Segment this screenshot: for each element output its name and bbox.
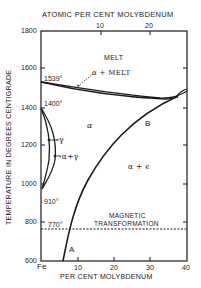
top-tick-label-10: 10 [96, 22, 104, 29]
alpha-gamma-arrowhead [53, 155, 56, 158]
y-tick-1200: 1200 [21, 141, 37, 148]
magnetic-label-line1: MAGNETIC [109, 213, 146, 220]
top-tick-label-20: 20 [145, 22, 153, 29]
temp-1400-label: 1400° [44, 100, 62, 107]
x-tick-20: 20 [110, 264, 118, 271]
alpha-epsilon-label: α + ϵ [128, 163, 150, 171]
temp-770-label: 770° [48, 221, 62, 228]
alpha-melt-arrowhead [77, 85, 80, 88]
point-b-label: B [145, 120, 151, 128]
solidus-line [41, 82, 178, 99]
x-tick-10: 10 [74, 264, 82, 271]
y-tick-1400: 1400 [21, 104, 37, 111]
y-tick-600: 600 [25, 257, 37, 264]
solvus-line-a-b [63, 96, 178, 261]
bottom-ticks [78, 257, 150, 261]
alpha-melt-arrow [78, 74, 93, 87]
melt-label: MELT [104, 54, 123, 61]
y-tick-800: 800 [25, 218, 37, 225]
temp-910-label: 910° [44, 198, 58, 205]
alpha-gamma-label: -α+γ [59, 153, 79, 161]
point-a-label: A [69, 246, 75, 254]
y-tick-1000: 1000 [21, 180, 37, 187]
y-tick-1600: 1600 [21, 64, 37, 71]
gamma-loop-outer [41, 108, 55, 189]
top-axis-label: ATOMIC PER CENT MOLYBDENUM [42, 11, 173, 19]
temp-1539-label: 1539° [44, 75, 62, 82]
y-tick-1800: 1800 [21, 27, 37, 34]
x-axis-label: PER CENT MOLYBDENUM [60, 273, 153, 280]
x-tick-40: 40 [182, 264, 190, 271]
liquidus-line [41, 82, 187, 98]
gamma-label: -γ [56, 136, 64, 144]
x-tick-30: 30 [146, 264, 154, 271]
alpha-melt-label: α + MELT [92, 70, 130, 77]
magnetic-label-line2: TRANSFORMATION [94, 221, 159, 228]
y-axis-label: TEMPERATURE IN DEGREES CENTIGRADE [5, 70, 12, 225]
alpha-label: α [87, 122, 93, 130]
x-tick-fe: Fe [37, 263, 46, 271]
